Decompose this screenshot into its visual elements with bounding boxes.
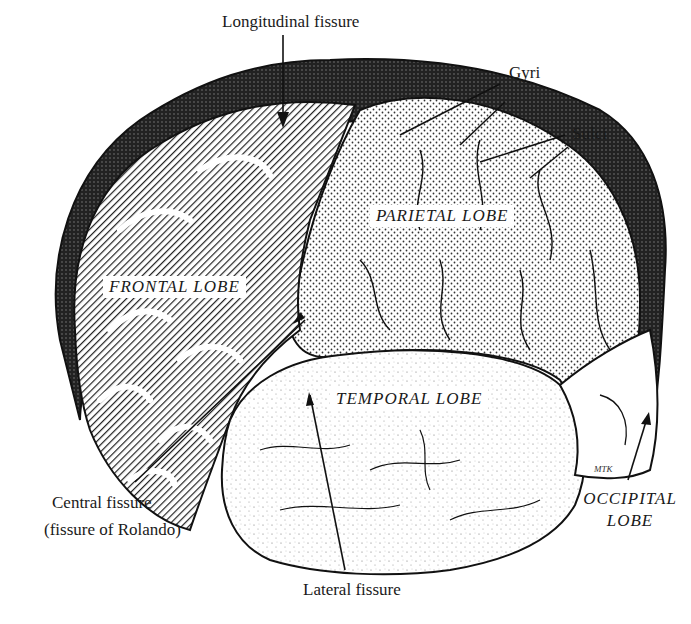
label-longitudinal-fissure: Longitudinal fissure [222, 12, 359, 32]
label-sulci: Sulci [572, 124, 607, 144]
label-parietal-lobe: PARIETAL LOBE [370, 205, 514, 227]
label-occipital-line1: OCCIPITAL [575, 488, 685, 510]
label-central-fissure: Central fissure [52, 493, 152, 513]
artist-signature: MTK [594, 464, 613, 474]
label-frontal-lobe: FRONTAL LOBE [103, 276, 246, 298]
label-temporal-lobe: TEMPORAL LOBE [330, 388, 488, 410]
label-gyri: Gyri [509, 63, 540, 83]
label-occipital-line2: LOBE [575, 510, 685, 532]
label-central-fissure-alt: (fissure of Rolando) [44, 520, 181, 540]
label-occipital-lobe: OCCIPITAL LOBE [575, 488, 685, 532]
label-lateral-fissure: Lateral fissure [303, 580, 401, 600]
